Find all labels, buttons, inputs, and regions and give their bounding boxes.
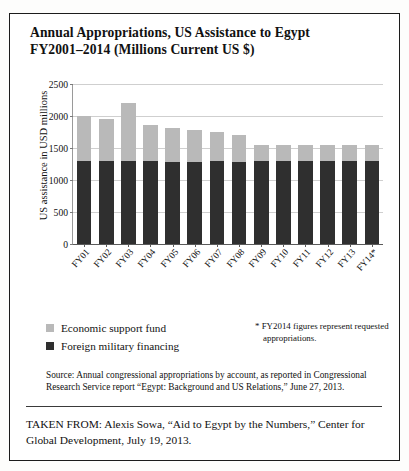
legend-item-esf: Economic support fund bbox=[46, 322, 246, 334]
x-tick-mark bbox=[150, 244, 151, 247]
bar-column: FY05 bbox=[162, 84, 184, 244]
taken-from-caption: TAKEN FROM: Alexis Sowa, “Aid to Egypt b… bbox=[26, 417, 386, 448]
bar-segment-foreign-military-financing bbox=[121, 161, 136, 244]
bar-column: FY13 bbox=[339, 84, 361, 244]
page-root: Annual Appropriations, US Assistance to … bbox=[0, 0, 409, 471]
bar-segment-foreign-military-financing bbox=[276, 161, 291, 244]
bar-segment-economic-support-fund bbox=[276, 145, 291, 161]
x-tick-label: FY10 bbox=[269, 247, 291, 269]
figure-title-line-1: Annual Appropriations, US Assistance to … bbox=[30, 25, 310, 40]
bar-segment-economic-support-fund bbox=[99, 119, 114, 161]
bar-segment-economic-support-fund bbox=[232, 135, 247, 162]
legend-swatch-esf-icon bbox=[46, 324, 54, 332]
x-tick-label: FY07 bbox=[203, 247, 225, 269]
bar-segment-economic-support-fund bbox=[143, 125, 158, 162]
stacked-bar bbox=[342, 145, 357, 244]
x-tick-label: FY06 bbox=[181, 247, 203, 269]
y-axis-title: US assistance in USD millions bbox=[38, 76, 49, 236]
legend-swatch-fmf-icon bbox=[46, 342, 54, 350]
y-tick-label: 1500 bbox=[49, 143, 68, 154]
chart-legend: Economic support fund Foreign military f… bbox=[46, 322, 246, 358]
bar-column: FY08 bbox=[228, 84, 250, 244]
stacked-bar bbox=[77, 116, 92, 244]
stacked-bar bbox=[210, 132, 225, 244]
bar-segment-foreign-military-financing bbox=[143, 161, 158, 244]
footnote-line-2: appropriations. bbox=[255, 333, 395, 345]
bar-segment-foreign-military-financing bbox=[254, 161, 269, 244]
bar-segment-foreign-military-financing bbox=[365, 161, 380, 244]
figure-box: Annual Appropriations, US Assistance to … bbox=[9, 13, 400, 461]
x-tick-label: FY01 bbox=[70, 247, 92, 269]
bar-segment-economic-support-fund bbox=[254, 145, 269, 161]
stacked-bar bbox=[365, 145, 380, 244]
chart: US assistance in USD millions 0500100015… bbox=[20, 72, 392, 302]
y-tick-label: 1000 bbox=[49, 175, 68, 186]
x-tick-label: FY11 bbox=[292, 247, 313, 269]
bar-column: FY03 bbox=[117, 84, 139, 244]
footnote-line-1: * FY2014 figures represent requested bbox=[255, 321, 389, 331]
source-line-1: Source: Annual congressional appropriati… bbox=[46, 370, 311, 380]
y-tick-mark bbox=[70, 244, 73, 245]
bar-column: FY12 bbox=[317, 84, 339, 244]
stacked-bar bbox=[320, 145, 335, 244]
scan-top-artifact bbox=[300, 1, 409, 10]
bar-column: FY01 bbox=[73, 84, 95, 244]
legend-label-fmf: Foreign military financing bbox=[61, 340, 179, 352]
section-divider bbox=[26, 406, 382, 407]
bar-column: FY10 bbox=[272, 84, 294, 244]
x-tick-label: FY09 bbox=[247, 247, 269, 269]
figure-title: Annual Appropriations, US Assistance to … bbox=[30, 24, 380, 58]
stacked-bar bbox=[232, 135, 247, 244]
bar-segment-foreign-military-financing bbox=[99, 161, 114, 244]
figure-footnote: * FY2014 figures represent requested app… bbox=[255, 321, 395, 344]
bar-column: FY06 bbox=[184, 84, 206, 244]
bar-segment-economic-support-fund bbox=[210, 132, 225, 161]
bar-segment-foreign-military-financing bbox=[77, 161, 92, 244]
y-tick-label: 2000 bbox=[49, 111, 68, 122]
x-tick-label: FY02 bbox=[92, 247, 114, 269]
bar-segment-economic-support-fund bbox=[77, 116, 92, 161]
x-tick-label: FY05 bbox=[158, 247, 180, 269]
bar-segment-economic-support-fund bbox=[298, 145, 313, 161]
bar-segment-economic-support-fund bbox=[187, 130, 202, 161]
stacked-bar bbox=[254, 145, 269, 244]
stacked-bar bbox=[165, 128, 180, 244]
bar-segment-economic-support-fund bbox=[121, 103, 136, 161]
stacked-bar bbox=[143, 125, 158, 244]
bar-segment-foreign-military-financing bbox=[232, 162, 247, 244]
stacked-bar bbox=[99, 119, 114, 244]
stacked-bar bbox=[121, 103, 136, 244]
bar-segment-economic-support-fund bbox=[342, 145, 357, 161]
x-tick-label: FY14* bbox=[355, 247, 380, 273]
stacked-bar bbox=[276, 145, 291, 244]
bar-segment-foreign-military-financing bbox=[210, 161, 225, 244]
bar-segment-foreign-military-financing bbox=[320, 161, 335, 244]
y-tick-label: 2500 bbox=[49, 79, 68, 90]
bar-column: FY14* bbox=[361, 84, 383, 244]
bar-segment-economic-support-fund bbox=[320, 145, 335, 161]
gridline bbox=[73, 244, 383, 245]
bar-segment-foreign-military-financing bbox=[298, 161, 313, 244]
stacked-bar bbox=[298, 145, 313, 244]
bar-segment-foreign-military-financing bbox=[342, 161, 357, 244]
bar-segment-foreign-military-financing bbox=[165, 162, 180, 244]
legend-item-fmf: Foreign military financing bbox=[46, 340, 246, 352]
figure-title-line-2: FY2001–2014 (Millions Current US $) bbox=[30, 41, 380, 58]
stacked-bar bbox=[187, 130, 202, 244]
legend-label-esf: Economic support fund bbox=[61, 322, 166, 334]
figure-source: Source: Annual congressional appropriati… bbox=[46, 369, 376, 393]
bar-group: FY01FY02FY03FY04FY05FY06FY07FY08FY09FY10… bbox=[73, 84, 383, 244]
bar-column: FY07 bbox=[206, 84, 228, 244]
x-tick-label: FY04 bbox=[136, 247, 158, 269]
bar-segment-foreign-military-financing bbox=[187, 162, 202, 244]
taken-from-line-1: TAKEN FROM: Alexis Sowa, “Aid to Egypt b… bbox=[26, 418, 348, 430]
bar-segment-economic-support-fund bbox=[365, 145, 380, 161]
plot-area: 05001000150020002500 FY01FY02FY03FY04FY0… bbox=[72, 84, 383, 245]
bar-column: FY09 bbox=[250, 84, 272, 244]
x-tick-label: FY12 bbox=[313, 247, 335, 269]
bar-column: FY11 bbox=[294, 84, 316, 244]
bar-column: FY04 bbox=[139, 84, 161, 244]
x-tick-label: FY03 bbox=[114, 247, 136, 269]
bar-column: FY02 bbox=[95, 84, 117, 244]
y-tick-label: 500 bbox=[54, 207, 68, 218]
